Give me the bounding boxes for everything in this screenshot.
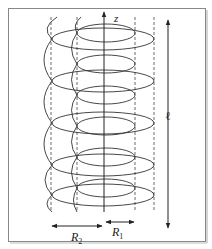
inner-helix [72,17,136,212]
r2-label: R2 [70,230,82,246]
z-axis-label: z [113,12,119,24]
length-label: ℓ [165,109,171,123]
outer-helix [44,17,154,212]
figure-frame [9,9,206,242]
r1-label: R1 [111,225,123,241]
helix-diagram: z ℓ R2 R1 [0,0,212,249]
